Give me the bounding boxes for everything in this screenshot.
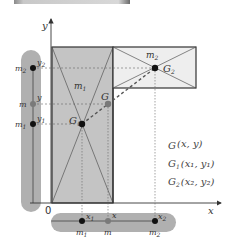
y-axis-label: y	[41, 20, 48, 31]
y1-dot	[30, 121, 36, 127]
x-dot	[105, 218, 111, 224]
y2-dot	[30, 65, 36, 71]
x-bar-mass-m: m	[104, 228, 112, 237]
y-bar-mass-m: m	[19, 100, 27, 109]
legend: G(x, y) G1(x₁, y₁) G2(x₂, y₂)	[168, 138, 214, 188]
x-axis-label: x	[208, 205, 214, 216]
y-bar-coord-y2: y2	[36, 58, 46, 68]
y-bar-coord-y: y	[36, 93, 42, 102]
x1-dot	[79, 218, 85, 224]
y-dot	[30, 101, 36, 107]
origin-label: 0	[45, 205, 51, 216]
legend-item-g: G(x, y)	[168, 138, 203, 151]
g2-dot	[152, 65, 158, 71]
y-bar-coord-y1: y1	[36, 114, 45, 124]
y-bar	[21, 50, 41, 212]
composite-centroid-diagram: y x 0 m2 m1 G2 G1 G m2 y2 m y m1 y1 x1 x…	[0, 0, 228, 250]
legend-item-g2: G2(x₂, y₂)	[168, 176, 214, 188]
top-bar	[14, 0, 130, 4]
g-label: G	[101, 91, 109, 102]
x-bar-coord-x: x	[112, 211, 117, 220]
legend-item-g1: G1(x₁, y₁)	[168, 158, 214, 170]
